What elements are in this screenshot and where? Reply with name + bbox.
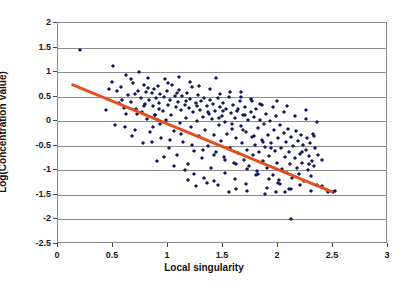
scatter-point bbox=[333, 189, 337, 193]
scatter-point bbox=[138, 96, 142, 100]
x-tick-label: 0.5 bbox=[106, 250, 119, 260]
scatter-point bbox=[120, 97, 124, 101]
scatter-point bbox=[159, 136, 163, 140]
scatter-point bbox=[154, 96, 158, 100]
chart-page: Log(Concentration Value) 21.510.50-0.5-1… bbox=[0, 0, 408, 284]
scatter-point bbox=[213, 109, 217, 113]
scatter-point bbox=[226, 190, 230, 194]
scatter-point bbox=[307, 162, 311, 166]
y-tick-label: 1.5 bbox=[38, 42, 51, 52]
scatter-point bbox=[209, 166, 213, 170]
scatter-point bbox=[106, 87, 110, 91]
scatter-point bbox=[252, 115, 256, 119]
scatter-point bbox=[150, 104, 154, 108]
scatter-point bbox=[298, 183, 302, 187]
scatter-point bbox=[276, 136, 280, 140]
scatter-point bbox=[175, 152, 179, 156]
scatter-point bbox=[229, 111, 233, 115]
scatter-point bbox=[301, 143, 305, 147]
y-tick-label: 2 bbox=[46, 17, 51, 27]
x-tick-label: 2.5 bbox=[326, 250, 339, 260]
scatter-point bbox=[309, 189, 313, 193]
scatter-point bbox=[256, 126, 260, 130]
scatter-point bbox=[266, 133, 270, 137]
scatter-point bbox=[113, 123, 117, 127]
scatter-point bbox=[204, 181, 208, 185]
scatter-point bbox=[291, 144, 295, 148]
y-axis-title: Log(Concentration Value) bbox=[0, 32, 8, 232]
scatter-point bbox=[312, 164, 316, 168]
scatter-point bbox=[223, 157, 227, 161]
y-tick-label: -1.5 bbox=[35, 189, 51, 199]
scatter-point bbox=[310, 158, 314, 162]
x-tick-label: 2 bbox=[274, 250, 279, 260]
scatter-point bbox=[271, 128, 275, 132]
scatter-point bbox=[299, 133, 303, 137]
scatter-point bbox=[238, 95, 242, 99]
scatter-point bbox=[296, 139, 300, 143]
scatter-point bbox=[227, 90, 231, 94]
scatter-point bbox=[194, 119, 198, 123]
scatter-point bbox=[180, 94, 184, 98]
x-tick-mark bbox=[167, 243, 168, 247]
scatter-point bbox=[131, 81, 135, 85]
scatter-point bbox=[289, 135, 293, 139]
scatter-point bbox=[312, 134, 316, 138]
scatter-point bbox=[281, 131, 285, 135]
scatter-point bbox=[309, 174, 313, 178]
x-tick-label: 3 bbox=[384, 250, 389, 260]
scatter-point bbox=[292, 156, 296, 160]
x-tick-mark bbox=[222, 243, 223, 247]
y-tick-label: -0.5 bbox=[35, 140, 51, 150]
scatter-point bbox=[123, 125, 127, 129]
scatter-point bbox=[185, 91, 189, 95]
scatter-point bbox=[149, 91, 153, 95]
scatter-point bbox=[149, 140, 153, 144]
scatter-point bbox=[182, 168, 186, 172]
scatter-point bbox=[254, 107, 258, 111]
scatter-point bbox=[237, 99, 241, 103]
scatter-point bbox=[221, 100, 225, 104]
scatter-point bbox=[191, 110, 195, 114]
scatter-point bbox=[282, 154, 286, 158]
scatter-point bbox=[78, 48, 82, 52]
scatter-point bbox=[274, 190, 278, 194]
x-tick-label: 0 bbox=[54, 250, 59, 260]
scatter-point bbox=[289, 217, 293, 221]
scatter-point bbox=[204, 104, 208, 108]
scatter-point bbox=[223, 120, 227, 124]
scatter-point bbox=[263, 145, 267, 149]
scatter-point bbox=[183, 116, 187, 120]
scatter-point bbox=[233, 177, 237, 181]
scatter-point bbox=[246, 118, 250, 122]
scatter-point bbox=[223, 171, 227, 175]
scatter-point bbox=[215, 96, 219, 100]
scatter-point bbox=[243, 105, 247, 109]
scatter-point bbox=[230, 126, 234, 130]
scatter-point bbox=[215, 183, 219, 187]
y-tick-label: -1 bbox=[43, 164, 51, 174]
x-tick-mark bbox=[387, 243, 388, 247]
scatter-point bbox=[133, 92, 137, 96]
scatter-point bbox=[181, 140, 185, 144]
scatter-point bbox=[186, 162, 190, 166]
scatter-point bbox=[242, 157, 246, 161]
scatter-point bbox=[168, 138, 172, 142]
scatter-point bbox=[282, 190, 286, 194]
scatter-point bbox=[257, 150, 261, 154]
scatter-point bbox=[126, 93, 130, 97]
scatter-point bbox=[231, 103, 235, 107]
scatter-point bbox=[208, 98, 212, 102]
scatter-point bbox=[189, 125, 193, 129]
y-tick-label: 0.5 bbox=[38, 91, 51, 101]
y-tick-label: 1 bbox=[46, 66, 51, 76]
scatter-point bbox=[289, 187, 293, 191]
x-tick-mark bbox=[332, 243, 333, 247]
scatter-point bbox=[260, 140, 264, 144]
scatter-point bbox=[186, 178, 190, 182]
scatter-point bbox=[124, 112, 128, 116]
scatter-point bbox=[196, 93, 200, 97]
scatter-point bbox=[264, 112, 268, 116]
scatter-point bbox=[142, 83, 146, 87]
scatter-point bbox=[265, 185, 269, 189]
